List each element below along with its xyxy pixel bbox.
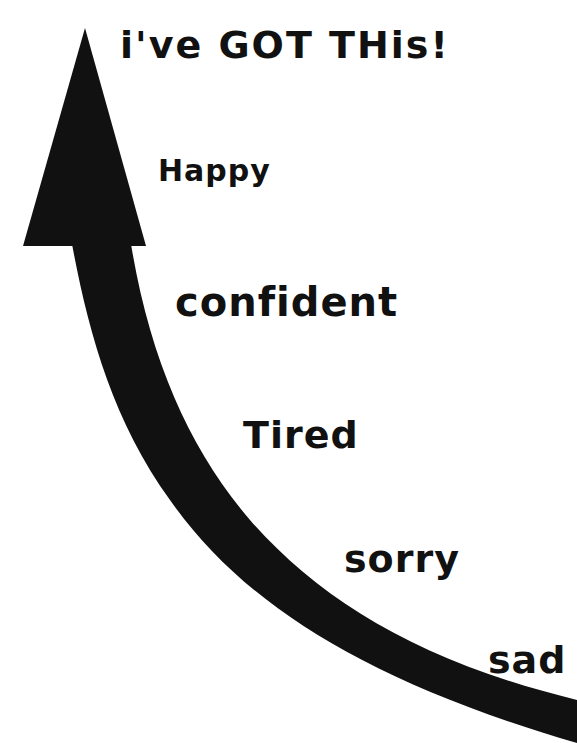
label-ive-got-this: i've GOT THis! <box>120 26 450 64</box>
emotion-arrow-diagram: i've GOT THis! Happy confident Tired sor… <box>0 0 577 743</box>
label-sorry: sorry <box>344 540 460 578</box>
label-confident: confident <box>175 282 398 322</box>
label-happy: Happy <box>158 156 271 186</box>
curved-arrow-icon <box>0 0 577 743</box>
label-tired: Tired <box>243 416 359 454</box>
label-sad: sad <box>488 641 566 679</box>
